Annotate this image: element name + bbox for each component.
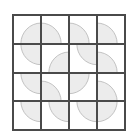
puzzle-tile[interactable] bbox=[13, 73, 41, 102]
puzzle-tile[interactable] bbox=[97, 73, 125, 102]
puzzle-tile[interactable] bbox=[41, 101, 69, 130]
puzzle-tile[interactable] bbox=[41, 15, 69, 44]
puzzle-tile[interactable] bbox=[41, 44, 69, 73]
grid-line-horizontal bbox=[12, 14, 126, 16]
quarter-circle-icon bbox=[97, 44, 125, 73]
puzzle-tile[interactable] bbox=[69, 101, 97, 130]
puzzle-tile[interactable] bbox=[97, 101, 125, 130]
grid-line-horizontal bbox=[12, 72, 126, 74]
tile-puzzle-board bbox=[13, 15, 125, 130]
puzzle-tile[interactable] bbox=[13, 101, 41, 130]
quarter-circle-icon bbox=[69, 15, 97, 44]
quarter-circle-icon bbox=[69, 44, 97, 73]
quarter-circle-icon bbox=[69, 101, 97, 130]
quarter-circle-icon bbox=[41, 73, 69, 102]
puzzle-tile[interactable] bbox=[13, 15, 41, 44]
grid-line-horizontal bbox=[12, 43, 126, 45]
quarter-circle-icon bbox=[13, 15, 41, 44]
quarter-circle-icon bbox=[69, 73, 97, 102]
puzzle-tile[interactable] bbox=[97, 15, 125, 44]
puzzle-tile[interactable] bbox=[97, 44, 125, 73]
quarter-circle-icon bbox=[97, 73, 125, 102]
quarter-circle-icon bbox=[41, 15, 69, 44]
puzzle-tile[interactable] bbox=[41, 73, 69, 102]
quarter-circle-icon bbox=[13, 44, 41, 73]
puzzle-tile[interactable] bbox=[69, 44, 97, 73]
quarter-circle-icon bbox=[41, 101, 69, 130]
quarter-circle-icon bbox=[13, 101, 41, 130]
grid-line-horizontal bbox=[12, 129, 126, 131]
puzzle-tile[interactable] bbox=[69, 15, 97, 44]
quarter-circle-icon bbox=[13, 73, 41, 102]
grid-line-horizontal bbox=[12, 100, 126, 102]
quarter-circle-icon bbox=[97, 15, 125, 44]
puzzle-tile[interactable] bbox=[69, 73, 97, 102]
quarter-circle-icon bbox=[97, 101, 125, 130]
puzzle-tile[interactable] bbox=[13, 44, 41, 73]
quarter-circle-icon bbox=[41, 44, 69, 73]
